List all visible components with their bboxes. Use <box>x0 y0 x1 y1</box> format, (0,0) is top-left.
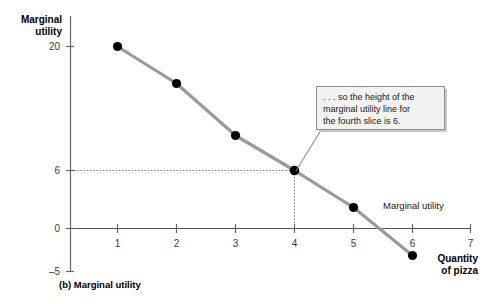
height-callout-box: . . . so the height of the marginal util… <box>317 87 448 133</box>
marginal-utility-chart: 20 6 0 –5 1 2 3 4 5 6 7 <box>0 0 487 304</box>
data-point-marker <box>408 251 417 260</box>
x-tick-label-1: 1 <box>115 238 121 249</box>
marginal-utility-line <box>118 47 413 256</box>
series-label-marginal-utility: Marginal utility <box>383 200 444 211</box>
callout-leader-line <box>296 130 321 171</box>
x-axis-title-line-2: of pizza <box>441 265 478 276</box>
y-axis-title-line-1: Marginal <box>21 14 62 25</box>
x-tick-label-2: 2 <box>174 238 180 249</box>
callout-line-3: the fourth slice is 6. <box>323 116 401 126</box>
x-tick-label-5: 5 <box>351 238 357 249</box>
y-tick-label-minus5: –5 <box>49 266 61 277</box>
x-tick-label-3: 3 <box>233 238 239 249</box>
x-tick-label-7: 7 <box>468 238 474 249</box>
data-point-marker <box>231 131 240 140</box>
y-tick-label-0: 0 <box>54 223 60 234</box>
x-tick-label-4: 4 <box>292 238 298 249</box>
y-tick-label-6: 6 <box>54 165 60 176</box>
callout-line-2: marginal utility line for <box>323 104 410 114</box>
callout-line-1: . . . so the height of the <box>323 92 415 102</box>
guide-lines <box>71 171 295 229</box>
x-axis-title: Quantity of pizza <box>437 253 478 276</box>
data-point-marker <box>349 203 358 212</box>
y-axis-title-line-2: utility <box>35 26 62 37</box>
marginal-utility-series <box>113 42 417 260</box>
marginal-utility-figure: 20 6 0 –5 1 2 3 4 5 6 7 <box>0 0 487 304</box>
x-axis-title-line-1: Quantity <box>437 253 478 264</box>
y-axis-title: Marginal utility <box>21 14 63 37</box>
x-tick-label-6: 6 <box>410 238 416 249</box>
figure-caption: (b) Marginal utility <box>59 279 142 290</box>
data-point-marker <box>172 79 181 88</box>
x-axis-ticks: 1 2 3 4 5 6 7 <box>115 224 474 249</box>
data-point-marker <box>113 42 122 51</box>
y-tick-label-20: 20 <box>49 41 61 52</box>
